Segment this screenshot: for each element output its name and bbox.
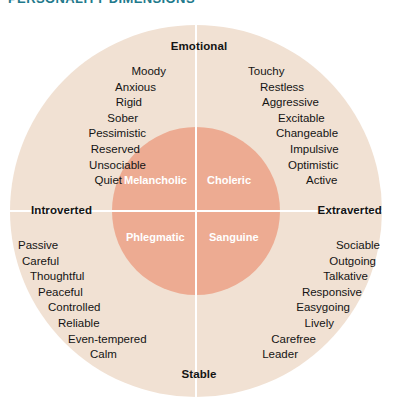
trait-item: Calm: [18, 347, 166, 363]
quadrant-label-choleric: Choleric: [207, 174, 251, 186]
trait-item: Responsive: [238, 285, 380, 301]
trait-list-sanguine: Sociable Outgoing Talkative Responsive E…: [238, 238, 380, 363]
trait-item: Aggressive: [248, 95, 378, 111]
trait-item: Passive: [18, 238, 166, 254]
trait-list-choleric: Touchy Restless Aggressive Excitable Cha…: [248, 64, 378, 189]
trait-item: Changeable: [248, 126, 378, 142]
trait-item: Impulsive: [248, 142, 378, 158]
trait-item: Touchy: [248, 64, 378, 80]
trait-item: Reserved: [18, 142, 166, 158]
trait-item: Even-tempered: [18, 332, 166, 348]
trait-item: Lively: [238, 316, 380, 332]
trait-item: Optimistic: [248, 158, 378, 174]
trait-item: Restless: [248, 80, 378, 96]
trait-item: Controlled: [18, 300, 166, 316]
trait-item: Excitable: [248, 111, 378, 127]
trait-item: Talkative: [238, 269, 380, 285]
trait-item: Thoughtful: [18, 269, 166, 285]
trait-item: Active: [248, 173, 378, 189]
trait-list-phlegmatic: Passive Careful Thoughtful Peaceful Cont…: [18, 238, 166, 363]
trait-item: Moody: [18, 64, 166, 80]
trait-item: Careful: [18, 254, 166, 270]
trait-item: Carefree: [238, 332, 380, 348]
trait-item: Peaceful: [18, 285, 166, 301]
trait-item: Pessimistic: [18, 126, 166, 142]
trait-item: Outgoing: [238, 254, 380, 270]
trait-item: Sociable: [238, 238, 380, 254]
trait-list-melancholic: Moody Anxious Rigid Sober Pessimistic Re…: [18, 64, 166, 189]
trait-item: Easygoing: [238, 300, 380, 316]
axis-pole-stable: Stable: [0, 368, 398, 380]
trait-item: Rigid: [18, 95, 166, 111]
trait-item: Unsociable: [18, 158, 166, 174]
trait-item: Anxious: [18, 80, 166, 96]
axis-pole-extraverted: Extraverted: [318, 204, 382, 216]
trait-item: Quiet: [18, 173, 166, 189]
trait-item: Sober: [18, 111, 166, 127]
axis-pole-introverted: Introverted: [31, 204, 92, 216]
trait-item: Reliable: [18, 316, 166, 332]
trait-item: Leader: [238, 347, 380, 363]
personality-circumplex-diagram: Emotional Stable Introverted Extraverted…: [0, 0, 398, 420]
axis-pole-emotional: Emotional: [0, 40, 398, 52]
